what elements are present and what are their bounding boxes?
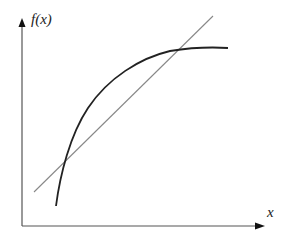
concave-curve <box>56 47 228 206</box>
x-axis-label: x <box>267 205 274 220</box>
y-axis-label: f(x) <box>31 12 52 27</box>
y-axis-arrow-icon <box>19 18 26 27</box>
secant-line <box>34 16 213 192</box>
diagram-canvas <box>0 0 281 241</box>
x-axis-arrow-icon <box>255 223 265 230</box>
